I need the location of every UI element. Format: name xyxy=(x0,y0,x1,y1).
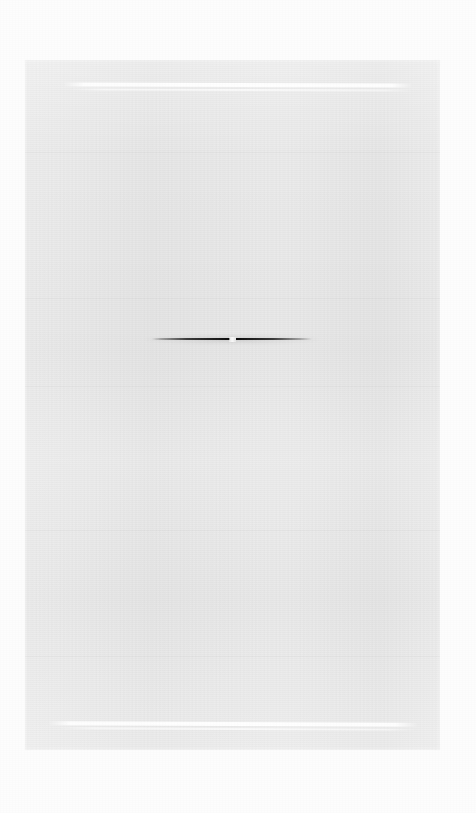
faint-band xyxy=(25,386,440,387)
center-dark-mark-notch xyxy=(229,337,236,342)
document-viewport xyxy=(0,0,476,813)
document-page-panel[interactable] xyxy=(25,60,440,750)
center-dark-mark-left xyxy=(152,338,230,340)
faint-band xyxy=(25,152,440,153)
panel-texture-overlay xyxy=(25,60,440,750)
faint-band xyxy=(25,530,440,531)
faint-band xyxy=(25,298,440,299)
page-body-text xyxy=(24,59,25,60)
faint-band xyxy=(25,656,440,657)
center-dark-mark-right xyxy=(236,338,312,340)
center-dark-mark[interactable] xyxy=(152,336,312,343)
